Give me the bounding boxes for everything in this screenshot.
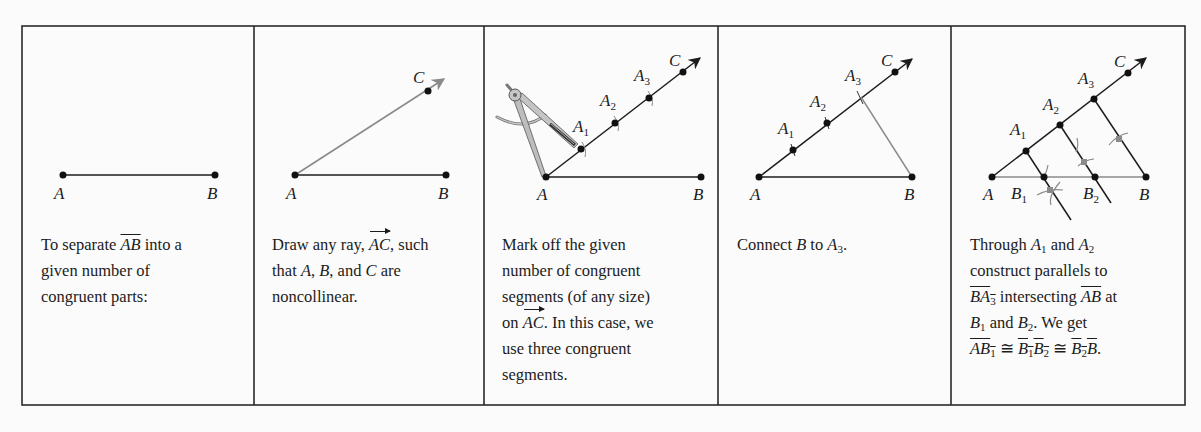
parallel-a1 xyxy=(1026,151,1071,220)
label-c: C xyxy=(669,51,681,70)
point-c xyxy=(1125,70,1132,77)
panel-1-caption: To separate AB into a given number of co… xyxy=(41,232,246,310)
label-a: A xyxy=(285,184,297,203)
segment-ab-notation: AB xyxy=(1081,287,1101,306)
label-b2: B2 xyxy=(1083,184,1099,205)
segment-ab1-notation: AB1 xyxy=(970,339,996,358)
segment-b2b-notation: B2B xyxy=(1071,339,1097,358)
point-b xyxy=(1143,174,1150,181)
label-c: C xyxy=(413,68,425,87)
ray-ac-notation: AC xyxy=(369,232,390,258)
ray-ac xyxy=(759,59,912,177)
label-b: B xyxy=(693,185,704,204)
ray-ac-notation: AC xyxy=(523,310,544,336)
segment-ba3-notation: BA3 xyxy=(970,287,996,306)
segment-b1b2-notation: B1B2 xyxy=(1018,339,1049,358)
panel-1-diagram: A B xyxy=(53,172,219,204)
point-a2 xyxy=(1057,122,1064,129)
point-a2 xyxy=(612,120,619,127)
label-c: C xyxy=(881,51,893,70)
label-a1: A1 xyxy=(1009,120,1026,141)
point-a xyxy=(989,174,996,181)
ray-ac xyxy=(295,79,444,175)
point-b xyxy=(698,174,705,181)
point-b2 xyxy=(1092,174,1099,181)
label-c: C xyxy=(1114,52,1126,71)
label-a3: A3 xyxy=(1077,69,1094,90)
label-b: B xyxy=(1139,185,1150,204)
point-a xyxy=(60,172,67,179)
panel-3-diagram: A B C A1 A2 A3 xyxy=(497,51,705,204)
point-a xyxy=(292,172,299,179)
ray-ac xyxy=(546,58,700,177)
label-a: A xyxy=(53,184,65,203)
panel-2-diagram: A B C xyxy=(285,68,450,203)
panel-5-diagram: A B C A1 A2 A3 B1 B2 xyxy=(982,52,1150,220)
label-b: B xyxy=(438,184,449,203)
label-b: B xyxy=(207,184,218,203)
point-a1 xyxy=(790,147,797,154)
panel-4-caption: Connect B to A3. xyxy=(737,232,942,258)
panel-2-caption: Draw any ray, AC, such that A, B, and C … xyxy=(272,232,477,310)
label-b1: B1 xyxy=(1011,184,1027,205)
ray-ac xyxy=(992,58,1146,177)
point-a1 xyxy=(1023,148,1030,155)
point-c xyxy=(425,88,432,95)
label-a2: A2 xyxy=(599,91,616,112)
point-b xyxy=(443,172,450,179)
point-a3 xyxy=(1091,96,1098,103)
point-c xyxy=(892,69,899,76)
label-a3: A3 xyxy=(633,66,650,87)
point-a2 xyxy=(824,120,831,127)
point-a1 xyxy=(578,146,585,153)
point-b1 xyxy=(1041,174,1048,181)
segment-ab-notation: AB xyxy=(120,235,140,254)
compass-icon xyxy=(497,85,578,177)
label-a: A xyxy=(536,185,548,204)
point-a3 xyxy=(646,95,653,102)
point-b xyxy=(909,174,916,181)
point-b xyxy=(212,172,219,179)
label-b: B xyxy=(904,185,915,204)
label-a1: A1 xyxy=(777,119,794,140)
point-a xyxy=(756,174,763,181)
point-c xyxy=(680,69,687,76)
label-a2: A2 xyxy=(809,92,826,113)
segment-ba3 xyxy=(861,97,912,177)
label-a: A xyxy=(982,185,994,204)
point-a xyxy=(543,174,550,181)
label-a1: A1 xyxy=(572,117,589,138)
mark-1 xyxy=(1047,187,1053,193)
label-a2: A2 xyxy=(1042,95,1059,116)
mark-2 xyxy=(1081,159,1087,165)
panel-5-caption: Through A1 and A2 construct parallels to… xyxy=(970,232,1180,362)
panel-3-caption: Mark off the given number of congruent s… xyxy=(502,232,712,388)
panel-4-diagram: A B C A1 A2 A3 xyxy=(749,51,916,204)
label-a3: A3 xyxy=(844,66,861,87)
label-a: A xyxy=(749,185,761,204)
mark-3 xyxy=(1116,136,1122,142)
